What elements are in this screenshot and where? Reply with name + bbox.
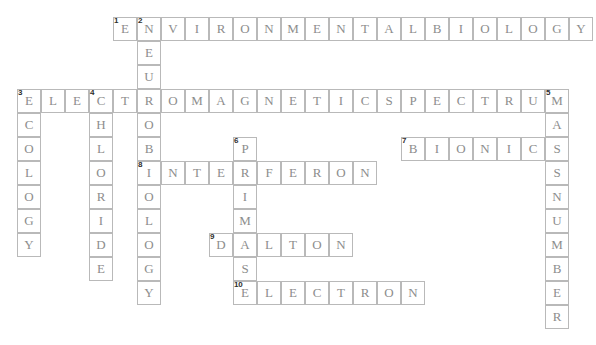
crossword-cell[interactable]: O [449,137,473,161]
crossword-cell[interactable]: R [89,185,113,209]
crossword-cell[interactable]: T [281,233,305,257]
crossword-cell[interactable]: P [233,137,257,161]
crossword-cell[interactable]: E [113,17,137,41]
crossword-cell[interactable]: R [353,281,377,305]
crossword-cell[interactable]: R [233,161,257,185]
crossword-cell[interactable]: O [17,137,41,161]
crossword-cell[interactable]: O [161,89,185,113]
crossword-cell[interactable]: N [329,233,353,257]
crossword-cell[interactable]: S [545,161,569,185]
crossword-cell[interactable]: T [473,89,497,113]
crossword-cell[interactable]: L [257,281,281,305]
crossword-cell[interactable]: R [209,17,233,41]
crossword-cell[interactable]: Y [17,233,41,257]
crossword-cell[interactable]: N [329,17,353,41]
crossword-cell[interactable]: A [233,233,257,257]
crossword-cell[interactable]: T [353,17,377,41]
crossword-cell[interactable]: S [377,89,401,113]
crossword-cell[interactable]: O [17,185,41,209]
crossword-cell[interactable]: I [137,161,161,185]
crossword-cell[interactable]: B [137,137,161,161]
crossword-cell[interactable]: I [497,137,521,161]
crossword-cell[interactable]: I [89,209,113,233]
crossword-cell[interactable]: N [137,17,161,41]
crossword-cell[interactable]: N [353,161,377,185]
crossword-cell[interactable]: V [161,17,185,41]
crossword-cell[interactable]: C [449,89,473,113]
crossword-cell[interactable]: E [281,161,305,185]
crossword-cell[interactable]: H [89,113,113,137]
crossword-cell[interactable]: B [425,17,449,41]
crossword-cell[interactable]: N [257,89,281,113]
crossword-cell[interactable]: P [401,89,425,113]
crossword-cell[interactable]: M [545,233,569,257]
crossword-cell[interactable]: S [545,137,569,161]
crossword-cell[interactable]: T [185,161,209,185]
crossword-cell[interactable]: B [545,257,569,281]
crossword-cell[interactable]: I [449,17,473,41]
crossword-cell[interactable]: O [521,17,545,41]
crossword-cell[interactable]: A [377,17,401,41]
crossword-cell[interactable]: T [305,89,329,113]
crossword-cell[interactable]: O [137,233,161,257]
crossword-cell[interactable]: E [281,89,305,113]
crossword-cell[interactable]: A [209,89,233,113]
crossword-cell[interactable]: E [545,281,569,305]
crossword-cell[interactable]: R [137,89,161,113]
crossword-cell[interactable]: E [209,161,233,185]
crossword-cell[interactable]: O [89,161,113,185]
crossword-cell[interactable]: I [233,185,257,209]
crossword-cell[interactable]: L [89,137,113,161]
crossword-cell[interactable]: C [17,113,41,137]
crossword-cell[interactable]: I [185,17,209,41]
crossword-cell[interactable]: S [233,257,257,281]
crossword-cell[interactable]: M [281,17,305,41]
crossword-cell[interactable]: O [329,161,353,185]
crossword-cell[interactable]: O [137,185,161,209]
crossword-cell[interactable]: L [137,209,161,233]
crossword-cell[interactable]: R [545,305,569,329]
crossword-cell[interactable]: N [257,17,281,41]
crossword-cell[interactable]: L [257,233,281,257]
crossword-cell[interactable]: G [233,89,257,113]
crossword-cell[interactable]: O [305,233,329,257]
crossword-cell[interactable]: L [41,89,65,113]
crossword-cell[interactable]: U [545,209,569,233]
crossword-cell[interactable]: D [89,233,113,257]
crossword-cell[interactable]: A [545,113,569,137]
crossword-cell[interactable]: U [137,65,161,89]
crossword-cell[interactable]: R [305,161,329,185]
crossword-cell[interactable]: M [233,209,257,233]
crossword-cell[interactable]: M [545,89,569,113]
crossword-cell[interactable]: O [233,17,257,41]
crossword-cell[interactable]: I [329,89,353,113]
crossword-cell[interactable]: N [545,185,569,209]
crossword-cell[interactable]: T [113,89,137,113]
crossword-cell[interactable]: G [137,257,161,281]
crossword-cell[interactable]: C [521,137,545,161]
crossword-cell[interactable]: R [497,89,521,113]
crossword-cell[interactable]: N [401,281,425,305]
crossword-cell[interactable]: E [89,257,113,281]
crossword-cell[interactable]: G [545,17,569,41]
crossword-cell[interactable]: E [233,281,257,305]
crossword-cell[interactable]: L [401,17,425,41]
crossword-cell[interactable]: C [353,89,377,113]
crossword-cell[interactable]: T [329,281,353,305]
crossword-cell[interactable]: U [521,89,545,113]
crossword-cell[interactable]: E [305,17,329,41]
crossword-cell[interactable]: I [425,137,449,161]
crossword-cell[interactable]: O [473,17,497,41]
crossword-cell[interactable]: G [17,209,41,233]
crossword-cell[interactable]: E [425,89,449,113]
crossword-cell[interactable]: E [65,89,89,113]
crossword-cell[interactable]: O [137,113,161,137]
crossword-cell[interactable]: Y [137,281,161,305]
crossword-cell[interactable]: M [185,89,209,113]
crossword-cell[interactable]: O [377,281,401,305]
crossword-cell[interactable]: E [137,41,161,65]
crossword-cell[interactable]: N [161,161,185,185]
crossword-cell[interactable]: B [401,137,425,161]
crossword-cell[interactable]: N [473,137,497,161]
crossword-cell[interactable]: L [17,161,41,185]
